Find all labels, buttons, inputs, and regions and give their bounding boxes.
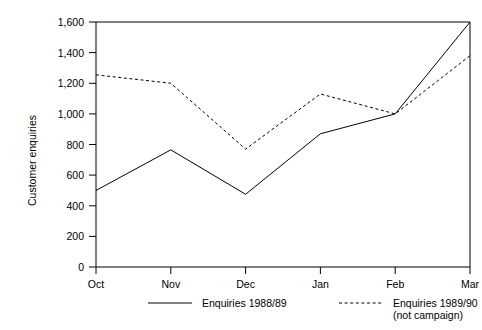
y-tick-label: 1,400 [58, 47, 84, 59]
x-tick-label: Jan [312, 278, 329, 290]
y-tick-label: 0 [78, 261, 84, 273]
line-chart-svg: 1,600 1,400 1,200 1,000 800 600 400 200 … [0, 0, 482, 330]
x-tick-label: Nov [161, 278, 180, 290]
series-line-enquiries-1989-90 [96, 56, 470, 149]
x-axis-ticks [96, 267, 470, 274]
legend-label-enquiries-1989-90-line2: (not campaign) [393, 309, 463, 321]
y-tick-label: 1,600 [58, 16, 84, 28]
y-tick-label: 400 [66, 200, 84, 212]
y-tick-label: 1,200 [58, 77, 84, 89]
x-tick-label: Feb [386, 278, 404, 290]
x-tick-label: Mar [461, 278, 480, 290]
y-tick-label: 1,000 [58, 108, 84, 120]
x-tick-label: Dec [236, 278, 255, 290]
y-axis-tick-labels: 1,600 1,400 1,200 1,000 800 600 400 200 … [58, 16, 84, 273]
y-axis-title: Customer enquiries [26, 115, 38, 206]
plot-frame [96, 22, 470, 267]
y-tick-label: 200 [66, 230, 84, 242]
x-tick-label: Oct [88, 278, 104, 290]
x-axis-tick-labels: Oct Nov Dec Jan Feb Mar [88, 278, 480, 290]
chart-figure: 1,600 1,400 1,200 1,000 800 600 400 200 … [0, 0, 482, 330]
y-axis-ticks [89, 22, 96, 267]
legend-label-enquiries-1989-90: Enquiries 1989/90 [393, 297, 478, 309]
legend-label-enquiries-1988-89: Enquiries 1988/89 [202, 297, 287, 309]
series-line-enquiries-1988-89 [96, 22, 470, 194]
legend: Enquiries 1988/89 Enquiries 1989/90 (not… [148, 297, 478, 321]
y-tick-label: 800 [66, 139, 84, 151]
y-tick-label: 600 [66, 169, 84, 181]
